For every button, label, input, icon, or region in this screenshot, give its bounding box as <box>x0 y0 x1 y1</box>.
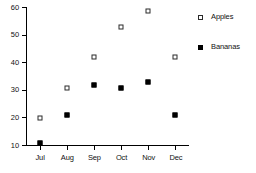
data-point-apples-sep <box>91 55 96 60</box>
y-axis-tick: 20 <box>22 117 27 118</box>
x-axis-tick: Oct <box>121 145 122 150</box>
data-point-bananas-nov <box>146 80 151 85</box>
y-axis-tick: 30 <box>22 90 27 91</box>
data-point-apples-dec <box>173 55 178 60</box>
y-axis-tick: 10 <box>22 145 27 146</box>
y-axis-tick-label: 60 <box>11 4 19 12</box>
data-point-bananas-oct <box>119 85 124 90</box>
x-axis-line <box>26 145 189 146</box>
y-axis-tick-label: 20 <box>11 114 19 122</box>
y-axis-tick: 40 <box>22 62 27 63</box>
data-point-apples-jul <box>37 116 42 121</box>
legend-label-apples: Apples <box>211 13 233 21</box>
legend-swatch-filled-square-icon <box>198 45 203 50</box>
y-axis-tick-label: 10 <box>11 142 19 150</box>
legend-label-bananas: Bananas <box>211 43 240 51</box>
legend-item-bananas: Bananas <box>198 42 256 52</box>
data-point-bananas-sep <box>91 83 96 88</box>
data-point-bananas-dec <box>173 113 178 118</box>
data-point-apples-oct <box>119 25 124 30</box>
x-axis-tick-label: Dec <box>169 154 182 162</box>
x-axis-tick-label: Jul <box>35 154 44 162</box>
x-axis-tick: Jul <box>40 145 41 150</box>
x-axis-tick: Aug <box>67 145 68 150</box>
y-axis-tick: 50 <box>22 35 27 36</box>
y-axis-tick-label: 50 <box>11 31 19 39</box>
x-axis-tick: Sep <box>94 145 95 150</box>
data-point-apples-nov <box>146 8 151 13</box>
x-axis-tick-label: Oct <box>116 154 127 162</box>
chart-legend: Apples Bananas <box>198 12 256 72</box>
y-axis-tick-label: 30 <box>11 87 19 95</box>
data-point-bananas-aug <box>64 113 69 118</box>
data-point-bananas-jul <box>37 140 42 145</box>
x-axis-tick-label: Sep <box>88 154 101 162</box>
data-point-apples-aug <box>64 85 69 90</box>
scatter-chart: 102030405060 JulAugSepOctNovDec Apples B… <box>0 0 256 173</box>
y-axis-tick: 60 <box>22 7 27 8</box>
plot-area: 102030405060 JulAugSepOctNovDec <box>26 8 189 146</box>
x-axis-tick-label: Aug <box>61 154 74 162</box>
x-axis-tick-label: Nov <box>142 154 155 162</box>
y-axis-line <box>26 8 27 146</box>
y-axis-tick-label: 40 <box>11 59 19 67</box>
x-axis-tick: Dec <box>175 145 176 150</box>
x-axis-tick: Nov <box>148 145 149 150</box>
legend-item-apples: Apples <box>198 12 256 22</box>
legend-swatch-open-square-icon <box>198 15 203 20</box>
